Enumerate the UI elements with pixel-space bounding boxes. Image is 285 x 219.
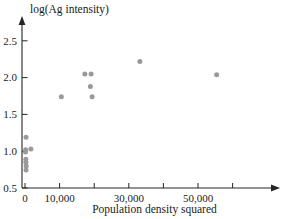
y-axis-tick-label: 1.5 (3, 108, 17, 120)
x-axis-tick-label: 50,000 (183, 192, 214, 204)
x-axis-arrow-icon (271, 185, 280, 192)
y-axis-arrow-icon (19, 16, 26, 25)
data-point (24, 135, 29, 140)
data-point (90, 94, 95, 99)
data-point (24, 167, 29, 172)
data-point (28, 146, 33, 151)
data-point (89, 71, 94, 76)
data-point (88, 84, 93, 89)
plot-canvas: 0.51.01.52.02.5010,00030,00050,000Popula… (0, 0, 285, 219)
data-point (59, 94, 64, 99)
x-axis-tick-label: 10,000 (44, 192, 75, 204)
data-point (82, 71, 87, 76)
y-axis-tick-label: 1.0 (3, 145, 17, 157)
y-axis-tick-label: 2.5 (3, 35, 17, 47)
data-point (23, 149, 28, 154)
x-axis-title: Population density squared (92, 203, 217, 216)
y-axis-tick-label: 2.0 (3, 71, 17, 83)
x-axis-tick-label: 30,000 (114, 192, 145, 204)
y-axis-tick-label: 0.5 (3, 182, 17, 194)
data-point (137, 59, 142, 64)
scatter-plot-figure: 0.51.01.52.02.5010,00030,00050,000Popula… (0, 0, 285, 219)
data-point (214, 72, 219, 77)
x-axis-tick-label: 0 (22, 192, 28, 204)
y-axis-title: log(Ag intensity) (30, 3, 109, 16)
